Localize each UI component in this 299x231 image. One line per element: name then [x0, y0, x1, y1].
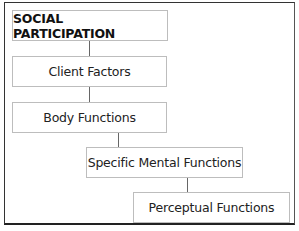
node-label: Perceptual Functions	[149, 200, 275, 215]
node-specific-mental-functions: Specific Mental Functions	[86, 147, 243, 178]
connector-social-client	[89, 41, 90, 56]
node-body-functions: Body Functions	[12, 102, 167, 133]
connector-mental-perceptual	[187, 178, 188, 192]
connector-body-mental	[118, 133, 119, 147]
connector-client-body	[89, 87, 90, 102]
node-client-factors: Client Factors	[12, 56, 167, 87]
node-perceptual-functions: Perceptual Functions	[133, 192, 290, 223]
node-label: Body Functions	[43, 110, 135, 125]
node-label: SOCIAL PARTICIPATION	[13, 11, 167, 41]
node-label: Client Factors	[48, 64, 130, 79]
node-label: Specific Mental Functions	[88, 155, 242, 170]
node-social-participation: SOCIAL PARTICIPATION	[12, 10, 168, 41]
